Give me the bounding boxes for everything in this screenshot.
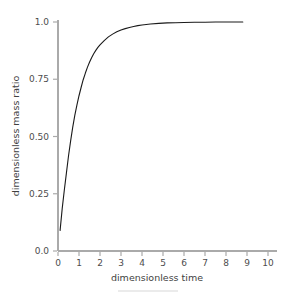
x-tick-label: 2 bbox=[97, 258, 103, 268]
x-tick-label: 9 bbox=[244, 258, 250, 268]
x-tick-label: 5 bbox=[160, 258, 166, 268]
y-axis-title: dimensionless mass ratio bbox=[10, 76, 21, 197]
chart-figure: 0.00.250.500.751.0 012345678910 dimensio… bbox=[0, 0, 295, 301]
x-tick-label: 4 bbox=[139, 258, 145, 268]
chart-canvas: 0.00.250.500.751.0 012345678910 dimensio… bbox=[0, 0, 295, 301]
x-tick-label: 1 bbox=[76, 258, 82, 268]
x-tick-label: 7 bbox=[202, 258, 208, 268]
x-axis-title: dimensionless time bbox=[111, 272, 203, 283]
x-tick-label: 6 bbox=[181, 258, 187, 268]
y-tick-label: 0.75 bbox=[29, 74, 49, 84]
y-tick-label: 0.50 bbox=[29, 132, 49, 142]
x-tick-label: 10 bbox=[262, 258, 274, 268]
x-tick-label: 3 bbox=[118, 258, 124, 268]
x-tick-label: 8 bbox=[223, 258, 229, 268]
x-tick-label: 0 bbox=[55, 258, 61, 268]
y-tick-label: 0.0 bbox=[35, 246, 50, 256]
y-tick-label: 1.0 bbox=[35, 17, 50, 27]
y-tick-label: 0.25 bbox=[29, 189, 49, 199]
